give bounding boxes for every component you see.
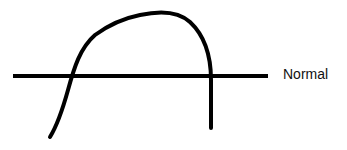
normal-label: Normal — [283, 66, 328, 82]
